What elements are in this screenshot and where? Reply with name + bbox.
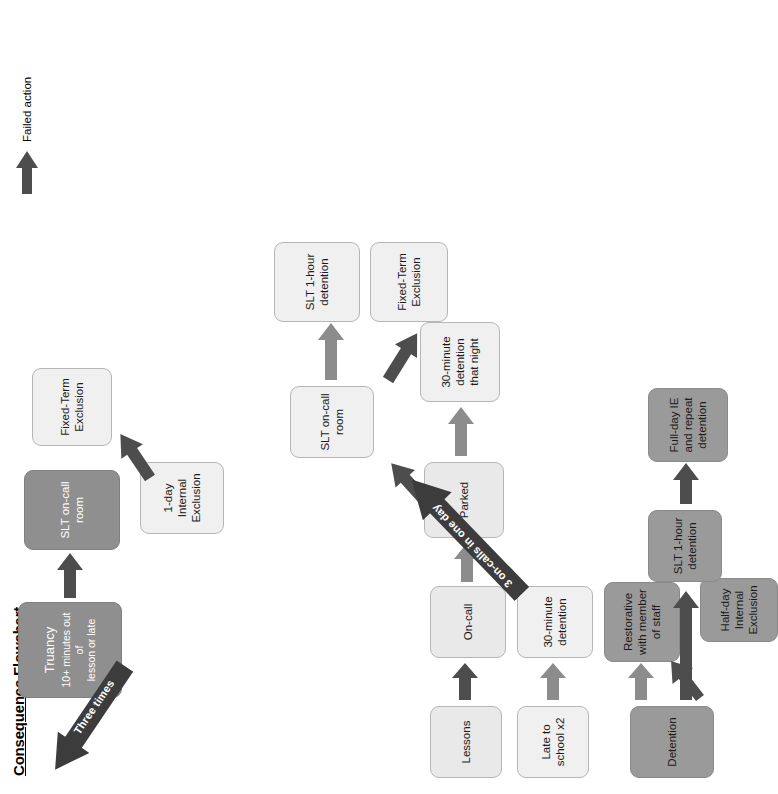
node-label: 30-minute detention that night: [439, 336, 482, 387]
node-label: SLT on-call room: [58, 475, 87, 545]
node-label: 1-day Internal Exclusion: [161, 473, 204, 522]
node-label: 30-minute detention: [541, 596, 570, 647]
node-slt-on-call-room-b[interactable]: SLT on-call room: [24, 470, 120, 550]
node-lessons[interactable]: Lessons: [430, 706, 502, 778]
arrow-parked-to-30-minute-that-night: [446, 406, 476, 456]
node-late-to-school[interactable]: Late to school x2: [517, 706, 589, 778]
arrow-slt-on-call-room-to-slt-1-hour-detention: [316, 322, 346, 380]
arrow-late-to-30-minute-detention: [538, 662, 568, 700]
node-fixed-term-exclusion-a[interactable]: Fixed-Term Exclusion: [370, 242, 448, 322]
node-slt-1-hour-detention-a[interactable]: SLT 1-hour detention: [274, 242, 360, 322]
node-label: Late to school x2: [539, 718, 568, 767]
node-half-day-internal-exclusion[interactable]: Half-day Internal Exclusion: [700, 578, 778, 642]
node-30-minute-detention-that-night[interactable]: 30-minute detention that night: [420, 322, 500, 402]
node-30-minute-detention[interactable]: 30-minute detention: [517, 586, 593, 658]
arrow-lessons-to-on-call: [450, 662, 480, 700]
legend-label: Failed action: [21, 77, 33, 142]
node-detention[interactable]: Detention: [630, 706, 714, 778]
legend: Failed action: [14, 77, 40, 194]
arrow-detention-to-restorative: [626, 662, 656, 700]
node-label: Detention: [665, 717, 679, 766]
node-label: Half-day Internal Exclusion: [718, 585, 761, 634]
node-label: SLT 1-hour detention: [303, 254, 332, 310]
node-slt-1-hour-detention-b[interactable]: SLT 1-hour detention: [648, 510, 722, 582]
node-label: Lessons: [459, 721, 473, 764]
failed-action-arrow-icon: [14, 150, 40, 194]
node-label: Fixed-Term Exclusion: [58, 378, 87, 436]
node-label: SLT on-call room: [318, 393, 347, 450]
node-slt-on-call-room-a[interactable]: SLT on-call room: [290, 386, 374, 458]
node-label: Full-day IE and repeat detention: [667, 398, 710, 453]
node-label: Fixed-Term Exclusion: [395, 253, 424, 311]
node-label: On-call: [461, 604, 475, 640]
arrow-truancy-to-slt-on-call-room-b: [56, 552, 84, 598]
node-label: Restorative with member of staff: [621, 589, 664, 655]
node-headline: Truancy: [42, 627, 58, 673]
arrow-slt-1-hour-to-full-day-ie: [672, 462, 700, 504]
node-full-day-ie-and-repeat-detention[interactable]: Full-day IE and repeat detention: [648, 388, 728, 462]
node-fixed-term-exclusion-b[interactable]: Fixed-Term Exclusion: [32, 368, 112, 446]
arrow-detention-to-slt-1-hour-detention: [672, 590, 700, 700]
node-restorative-with-member-of-staff[interactable]: Restorative with member of staff: [604, 582, 680, 662]
node-label: SLT 1-hour detention: [671, 518, 700, 574]
